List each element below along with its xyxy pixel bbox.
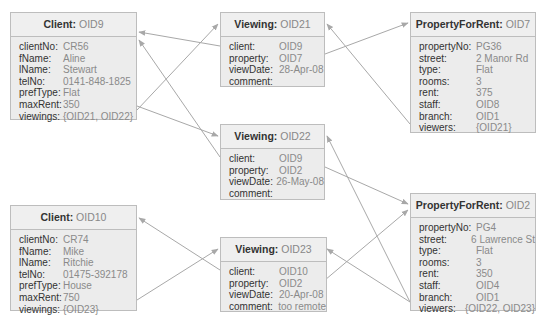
attr-value: PG36 <box>476 41 502 53</box>
link-client10-to-viewing23 <box>137 249 218 300</box>
attr-row: rooms:3 <box>419 76 535 88</box>
attr-row: telNo:0141-848-1825 <box>19 76 136 88</box>
object-id: OID10 <box>76 211 106 223</box>
attr-value: OID1 <box>476 111 499 123</box>
attr-value: {OID21} <box>476 122 512 134</box>
attr-row: propertyNo:PG36 <box>419 41 535 53</box>
attr-row: client:OID10 <box>229 266 326 278</box>
attr-row: prefType:House <box>19 280 136 292</box>
property-oid2-box[interactable]: PropertyForRent: OID2 propertyNo:PG4 str… <box>410 193 536 311</box>
attribute-list: clientNo:CR56 fName:Aline lName:Stewart … <box>11 37 136 126</box>
object-id: OID21 <box>280 18 310 30</box>
attr-key: client: <box>229 266 279 278</box>
attr-value: 3 <box>476 257 482 269</box>
attr-row: viewers:{OID22, OID23} <box>419 303 535 315</box>
attr-key: viewDate: <box>229 64 279 76</box>
attr-value: PG4 <box>476 222 496 234</box>
link-viewing21-to-property7 <box>325 23 408 54</box>
attr-row: lName:Ritchie <box>19 257 136 269</box>
attr-row: rooms:3 <box>419 257 535 269</box>
attr-key: comment: <box>229 188 279 200</box>
attribute-list: propertyNo:PG36 street:2 Manor Rd type:F… <box>411 37 535 138</box>
class-name: Client <box>43 18 72 30</box>
class-name: PropertyForRent <box>416 18 499 30</box>
attr-key: rent: <box>419 268 476 280</box>
object-id: OID23 <box>281 243 311 255</box>
object-id: OID2 <box>506 199 531 211</box>
object-header: PropertyForRent: OID2 <box>411 194 535 218</box>
link-client9-to-viewing22 <box>137 106 218 136</box>
attr-value: CR74 <box>63 234 89 246</box>
attr-value: Stewart <box>63 64 97 76</box>
attr-key: client: <box>229 153 279 165</box>
attr-row: branch:OID1 <box>419 111 535 123</box>
attr-value: OID9 <box>279 41 302 53</box>
attr-key: comment: <box>229 76 279 88</box>
attr-value: {OID21, OID22} <box>63 111 133 123</box>
viewing-oid22-box[interactable]: Viewing: OID22 client:OID9 property:OID2… <box>220 124 325 200</box>
viewing-oid23-box[interactable]: Viewing: OID23 client:OID10 property:OID… <box>220 237 327 312</box>
attr-row: lName:Stewart <box>19 64 136 76</box>
attr-row: viewers:{OID21} <box>419 122 535 134</box>
class-name: Viewing <box>234 18 273 30</box>
link-property2-to-viewing23 <box>327 249 410 302</box>
attr-value: OID10 <box>279 266 308 278</box>
attr-key: lName: <box>19 257 63 269</box>
attr-key: prefType: <box>19 87 63 99</box>
attr-row: client:OID9 <box>229 41 324 53</box>
attr-value: 2 Manor Rd <box>476 53 528 65</box>
attr-row: street:2 Manor Rd <box>419 53 535 65</box>
attr-row: type:Flat <box>419 245 535 257</box>
class-name: PropertyForRent <box>416 199 499 211</box>
link-viewing23-to-property2 <box>325 210 408 280</box>
attr-value: 6 Lawrence St <box>471 234 535 246</box>
attr-row: property:OID2 <box>229 165 324 177</box>
client-oid10-box[interactable]: Client: OID10 clientNo:CR74 fName:Mike l… <box>10 205 137 311</box>
attr-value: OID9 <box>279 153 302 165</box>
attr-row: clientNo:CR74 <box>19 234 136 246</box>
object-id: OID7 <box>506 18 531 30</box>
attr-value: Flat <box>63 87 80 99</box>
attr-row: comment: <box>229 76 324 88</box>
attr-key: viewings: <box>19 304 63 316</box>
attr-key: client: <box>229 41 279 53</box>
attr-value: OID2 <box>279 165 302 177</box>
class-name: Viewing <box>235 243 274 255</box>
attr-key: lName: <box>19 64 63 76</box>
attr-key: rooms: <box>419 257 476 269</box>
attr-row: fName:Mike <box>19 246 136 258</box>
attr-key: street: <box>419 234 471 246</box>
object-header: Viewing: OID22 <box>221 125 324 149</box>
attr-key: staff: <box>419 99 476 111</box>
attr-key: viewDate: <box>229 176 276 188</box>
attr-value: {OID22, OID23} <box>465 303 535 315</box>
attr-value: too remote <box>278 301 326 313</box>
attr-row: viewings:{OID21, OID22} <box>19 111 136 123</box>
attr-key: street: <box>419 53 476 65</box>
link-property7-to-viewing21 <box>327 24 410 124</box>
attr-row: fName:Aline <box>19 53 136 65</box>
attr-key: propertyNo: <box>419 222 476 234</box>
attr-row: clientNo:CR56 <box>19 41 136 53</box>
object-id: OID9 <box>79 18 104 30</box>
object-header: Client: OID10 <box>11 206 136 230</box>
attr-key: branch: <box>419 111 476 123</box>
property-oid7-box[interactable]: PropertyForRent: OID7 propertyNo:PG36 st… <box>410 12 536 133</box>
link-viewing23-to-client10 <box>139 218 220 270</box>
attr-row: viewings:{OID23} <box>19 304 136 316</box>
client-oid9-box[interactable]: Client: OID9 clientNo:CR56 fName:Aline l… <box>10 12 137 120</box>
attr-value: OID1 <box>476 292 499 304</box>
attr-key: type: <box>419 245 476 257</box>
object-id: OID22 <box>280 130 310 142</box>
attr-value: CR56 <box>63 41 89 53</box>
attr-value: 01475-392178 <box>63 269 128 281</box>
attr-value: OID4 <box>476 280 499 292</box>
attr-value: 375 <box>476 87 493 99</box>
link-property2-to-viewing22 <box>327 136 410 302</box>
attr-value: 20-Apr-08 <box>279 289 323 301</box>
attr-key: propertyNo: <box>419 41 476 53</box>
viewing-oid21-box[interactable]: Viewing: OID21 client:OID9 property:OID7… <box>220 12 325 87</box>
attr-key: rooms: <box>419 76 476 88</box>
attr-value: 3 <box>476 76 482 88</box>
attr-value: 750 <box>63 292 80 304</box>
